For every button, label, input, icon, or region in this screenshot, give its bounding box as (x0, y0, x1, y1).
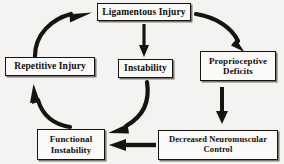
node-repetitive-injury[interactable]: Repetitive Injury (5, 57, 95, 76)
node-label: Repetitive Injury (11, 61, 89, 72)
node-proprioceptive-deficits[interactable]: Proprioceptive Deficits (200, 51, 276, 81)
node-decreased-neuromuscular-control[interactable]: Decreased Neuromuscular Control (158, 130, 278, 160)
arrow-repetitive-injury-to-ligamentous-injury (35, 13, 92, 57)
node-label: Ligamentous Injury (99, 7, 188, 18)
node-label: Instability (121, 63, 170, 74)
node-ligamentous-injury[interactable]: Ligamentous Injury (97, 3, 191, 21)
node-instability[interactable]: Instability (118, 59, 173, 78)
flow-diagram: Ligamentous Injury Repetitive Injury Ins… (0, 0, 284, 164)
arrow-decreased-neuromuscular-control-to-functional-instability (109, 139, 156, 151)
node-label: Proprioceptive Deficits (206, 56, 270, 76)
arrow-functional-instability-to-repetitive-injury (30, 84, 70, 127)
node-label: Decreased Neuromuscular Control (166, 135, 270, 154)
arrow-proprioceptive-deficits-to-decreased-neuromuscular-control (216, 87, 228, 124)
arrow-instability-to-functional-instability (108, 82, 148, 134)
arrow-ligamentous-injury-to-instability (139, 24, 149, 57)
node-functional-instability[interactable]: Functional Instability (37, 129, 105, 160)
arrow-ligamentous-injury-to-proprioceptive-deficits (196, 14, 245, 52)
node-label: Functional Instability (47, 134, 96, 154)
